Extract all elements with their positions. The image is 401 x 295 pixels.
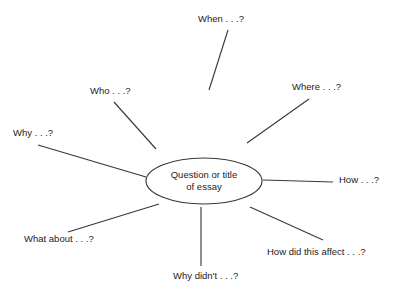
spoke-line-when [209, 30, 228, 90]
branch-label-who[interactable]: Who . . .? [90, 86, 131, 96]
branch-label-why-didnt[interactable]: Why didn't . . .? [173, 271, 238, 281]
spoke-line-how-did-this-affect [250, 207, 323, 240]
spoke-line-who [114, 102, 156, 149]
spoke-line-where [247, 99, 309, 143]
branch-label-where[interactable]: Where . . .? [292, 82, 341, 92]
branch-label-when[interactable]: When . . .? [198, 14, 244, 24]
diagram-canvas: Question or title of essay When . . .? W… [0, 0, 401, 295]
branch-label-how[interactable]: How . . .? [339, 175, 379, 185]
center-node-label-line1: Question or title [171, 169, 238, 180]
center-node-label-line2: of essay [186, 181, 222, 192]
spoke-line-what-about [68, 204, 159, 232]
spoke-line-how [263, 180, 333, 182]
branch-label-what-about[interactable]: What about . . .? [24, 234, 94, 244]
spoke-line-why [38, 145, 146, 177]
branch-label-how-did-this-affect[interactable]: How did this affect . . .? [267, 247, 366, 257]
branch-label-why[interactable]: Why . . .? [13, 128, 53, 138]
